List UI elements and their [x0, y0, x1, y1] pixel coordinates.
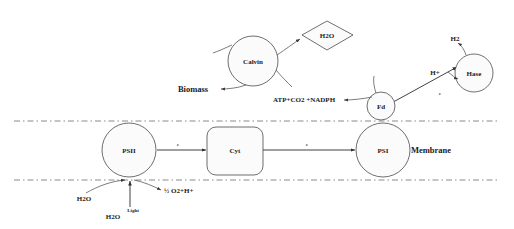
electron-label-cyt-psi: e	[306, 142, 308, 147]
membrane-label: Membrane	[411, 145, 451, 155]
light-label: Light	[127, 208, 139, 213]
diagram-svg: PSII Cyt PSI Fd Hase Calvin H2O Membrane…	[0, 0, 514, 229]
electron-transport-arrows	[157, 67, 457, 150]
arrow-fd-to-hase	[386, 67, 457, 106]
water-splitting-connectors	[86, 180, 161, 207]
curve-calvin-upper-left	[213, 45, 232, 53]
node-calvin-label: Calvin	[243, 58, 263, 66]
atp-co2-nadph-label: ATP+CO2 +NADPH	[273, 96, 336, 104]
h2o-left-label: H2O	[77, 195, 92, 203]
node-h2o-diamond-label: H2O	[320, 32, 335, 40]
diagram-canvas: PSII Cyt PSI Fd Hase Calvin H2O Membrane…	[0, 0, 514, 229]
electron-label-psii-cyt: e	[177, 142, 179, 147]
curve-fd-to-atp	[344, 97, 372, 100]
node-psii-label: PSII	[122, 147, 136, 155]
curve-hase-to-h2	[458, 43, 466, 55]
curve-fd-upper	[374, 76, 376, 93]
curve-h2o-to-psii	[86, 180, 125, 193]
node-fd-label: Fd	[377, 103, 385, 111]
node-hase-label: Hase	[467, 70, 482, 78]
oxygen-proton-label: ½ O2+H+	[164, 187, 193, 195]
curve-psii-to-oxygen	[134, 180, 161, 190]
h2o-bottom-label: H2O	[106, 213, 121, 221]
curve-calvin-to-biomass	[221, 85, 246, 89]
node-psi-label: PSI	[378, 147, 389, 155]
biomass-label: Biomass	[178, 84, 209, 94]
curve-calvin-lower-right	[276, 70, 292, 87]
h-plus-label: H+	[430, 69, 439, 77]
node-cyt-label: Cyt	[230, 147, 242, 155]
h2-label: H2	[451, 35, 460, 43]
curve-calvin-to-h2o	[277, 39, 300, 55]
electron-label-fd-hase: e	[439, 91, 441, 96]
